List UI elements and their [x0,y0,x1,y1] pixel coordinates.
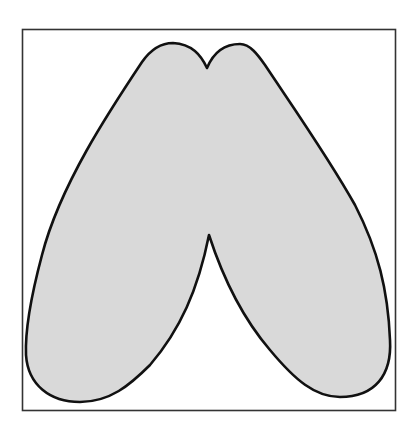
diagram-canvas [0,0,416,423]
